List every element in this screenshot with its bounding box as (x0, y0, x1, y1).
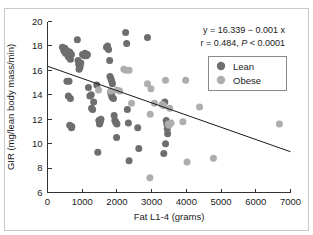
data-point-obese (146, 174, 153, 181)
y-axis-ticks: 68101214161820 (32, 16, 52, 198)
y-tick-label: 20 (32, 16, 43, 27)
annotation-r-value: r = 0.484, (200, 38, 241, 48)
data-point-obese (128, 100, 135, 107)
data-point-lean (110, 95, 117, 102)
data-point-lean (106, 57, 113, 64)
y-tick-label: 8 (37, 162, 42, 173)
data-point-lean (162, 140, 169, 147)
data-point-obese (162, 77, 169, 84)
legend-label-obese: Obese (233, 75, 261, 86)
data-point-lean (67, 95, 74, 102)
series-lean-points (59, 29, 171, 164)
x-tick-label: 0 (45, 196, 50, 207)
annotation-group: y = 16.339 − 0.001 x r = 0.484, P < 0.00… (200, 25, 285, 48)
data-point-lean (124, 106, 131, 113)
y-tick-label: 16 (32, 65, 43, 76)
scatter-plot: 68101214161820 0100020003000400050006000… (0, 0, 313, 235)
data-point-lean (134, 124, 141, 131)
y-axis-title: GIR (mg/lean body mass/min) (5, 44, 16, 170)
data-point-lean (77, 60, 84, 67)
x-tick-label: 4000 (176, 196, 197, 207)
x-tick-label: 6000 (245, 196, 266, 207)
y-tick-label: 10 (32, 138, 43, 149)
x-axis-title: Fat L1-4 (grams) (134, 211, 205, 222)
data-point-lean (97, 116, 104, 123)
data-point-obese (147, 85, 154, 92)
data-point-obese (182, 77, 189, 84)
data-point-obese (126, 67, 133, 74)
annotation-correlation: r = 0.484, P < 0.0001 (200, 38, 285, 48)
data-point-obese (147, 111, 154, 118)
annotation-p-value: < 0.0001 (247, 38, 285, 48)
data-point-lean (160, 150, 167, 157)
data-point-lean (105, 46, 112, 53)
data-point-obese (184, 158, 191, 165)
figure-container: 68101214161820 0100020003000400050006000… (0, 0, 313, 235)
data-point-lean (88, 91, 95, 98)
data-point-lean (84, 51, 91, 58)
data-point-obese (276, 121, 283, 128)
x-tick-label: 3000 (141, 196, 162, 207)
annotation-equation: y = 16.339 − 0.001 x (203, 25, 286, 35)
data-point-lean (113, 134, 120, 141)
y-tick-label: 12 (32, 114, 43, 125)
legend-marker-lean (217, 62, 225, 70)
legend-label-lean: Lean (233, 61, 254, 72)
data-point-lean (85, 84, 92, 91)
data-point-lean (126, 157, 133, 164)
y-tick-label: 14 (32, 89, 43, 100)
data-point-obese (95, 86, 102, 93)
data-point-lean (122, 29, 129, 36)
data-point-lean (68, 124, 75, 131)
data-point-lean (74, 36, 81, 43)
data-point-lean (90, 99, 97, 106)
data-point-lean (94, 149, 101, 156)
data-point-obese (179, 118, 186, 125)
data-point-lean (125, 119, 132, 126)
x-tick-label: 7000 (280, 196, 301, 207)
data-point-obese (196, 104, 203, 111)
data-point-lean (109, 80, 116, 87)
y-tick-label: 6 (37, 187, 42, 198)
data-point-lean (68, 51, 75, 58)
data-point-lean (66, 78, 73, 85)
legend-marker-obese (217, 76, 225, 84)
data-point-obese (210, 155, 217, 162)
x-tick-label: 5000 (211, 196, 232, 207)
x-tick-label: 2000 (106, 196, 127, 207)
data-point-lean (113, 121, 120, 128)
data-point-lean (89, 106, 96, 113)
data-point-lean (144, 34, 151, 41)
data-point-lean (123, 40, 130, 47)
legend: Lean Obese (209, 57, 287, 91)
data-point-lean (135, 145, 142, 152)
data-point-lean (164, 130, 171, 137)
x-axis-ticks: 01000200030004000500060007000 (45, 189, 301, 207)
y-tick-label: 18 (32, 40, 43, 51)
x-tick-label: 1000 (72, 196, 93, 207)
data-point-obese (168, 119, 175, 126)
